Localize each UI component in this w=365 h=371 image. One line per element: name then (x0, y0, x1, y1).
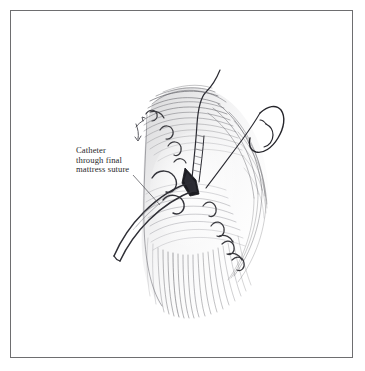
caption-line-3: mattress suture (76, 165, 148, 175)
suture-tails-left (135, 117, 145, 141)
caption-catheter-through-final-mattress-suture: Catheter through final mattress suture (76, 146, 148, 175)
surgical-illustration (0, 0, 365, 371)
illustration-plate: Catheter through final mattress suture (0, 0, 365, 371)
